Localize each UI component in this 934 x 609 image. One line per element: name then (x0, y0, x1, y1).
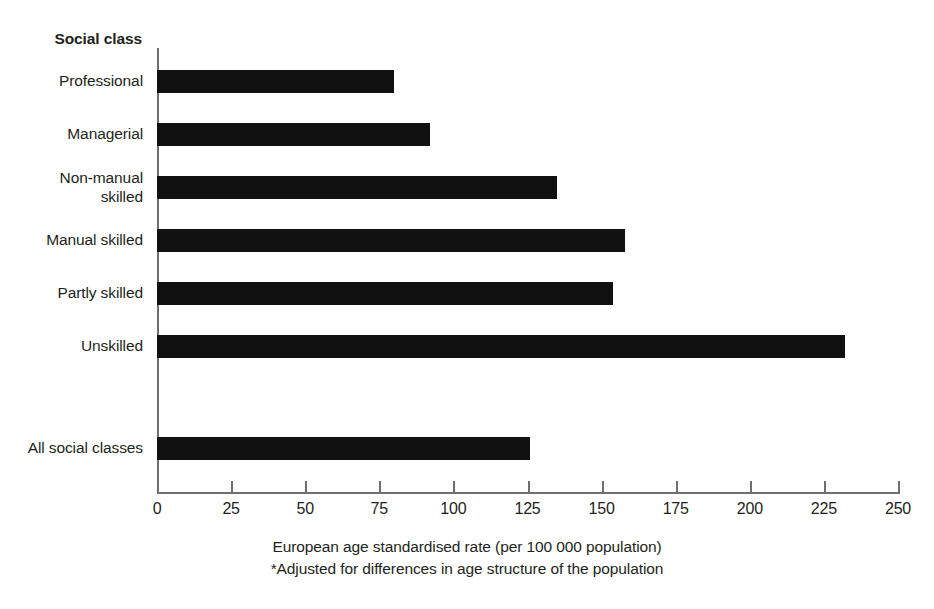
x-tick-label: 75 (349, 500, 409, 518)
category-label: Unskilled (0, 336, 143, 355)
category-label-line: skilled (0, 187, 143, 206)
category-label: Managerial (0, 124, 143, 143)
x-tick (898, 481, 900, 492)
x-tick-label: 175 (646, 500, 706, 518)
bar (157, 176, 557, 199)
x-tick (824, 481, 826, 492)
bar (157, 335, 845, 358)
x-tick (676, 481, 678, 492)
x-tick (231, 481, 233, 492)
x-tick-label: 50 (275, 500, 335, 518)
category-label: Non-manualskilled (0, 168, 143, 206)
x-tick-label: 250 (868, 500, 928, 518)
x-tick-label: 200 (720, 500, 780, 518)
category-label: All social classes (0, 438, 143, 457)
category-label-line: Manual skilled (0, 230, 143, 249)
x-tick (750, 481, 752, 492)
bar (157, 282, 613, 305)
x-tick (528, 481, 530, 492)
bar (157, 229, 625, 252)
x-tick-label: 225 (794, 500, 854, 518)
category-label-line: Unskilled (0, 336, 143, 355)
category-label-line: Partly skilled (0, 283, 143, 302)
category-label: Manual skilled (0, 230, 143, 249)
x-tick-label: 25 (201, 500, 261, 518)
category-label-line: Non-manual (0, 168, 143, 187)
category-label-line: Managerial (0, 124, 143, 143)
bar (157, 70, 394, 93)
y-axis-line (157, 48, 159, 492)
category-label: Professional (0, 71, 143, 90)
chart-footnote: *Adjusted for differences in age structu… (0, 558, 934, 580)
category-label: Partly skilled (0, 283, 143, 302)
x-axis-title: European age standardised rate (per 100 … (0, 536, 934, 558)
x-tick (379, 481, 381, 492)
bar-chart: Social class ProfessionalManagerialNon-m… (0, 0, 934, 609)
x-tick-label: 0 (127, 500, 187, 518)
x-tick-label: 150 (572, 500, 632, 518)
plot-area (157, 48, 898, 492)
bar (157, 123, 430, 146)
category-label-line: Professional (0, 71, 143, 90)
x-tick-label: 125 (498, 500, 558, 518)
x-tick (602, 481, 604, 492)
x-axis-line (157, 492, 900, 494)
y-axis-header: Social class (0, 30, 142, 48)
x-tick-label: 100 (423, 500, 483, 518)
x-tick (305, 481, 307, 492)
caption-block: European age standardised rate (per 100 … (0, 536, 934, 580)
x-tick (453, 481, 455, 492)
category-label-line: All social classes (0, 438, 143, 457)
x-tick (157, 481, 159, 492)
bar (157, 437, 530, 460)
